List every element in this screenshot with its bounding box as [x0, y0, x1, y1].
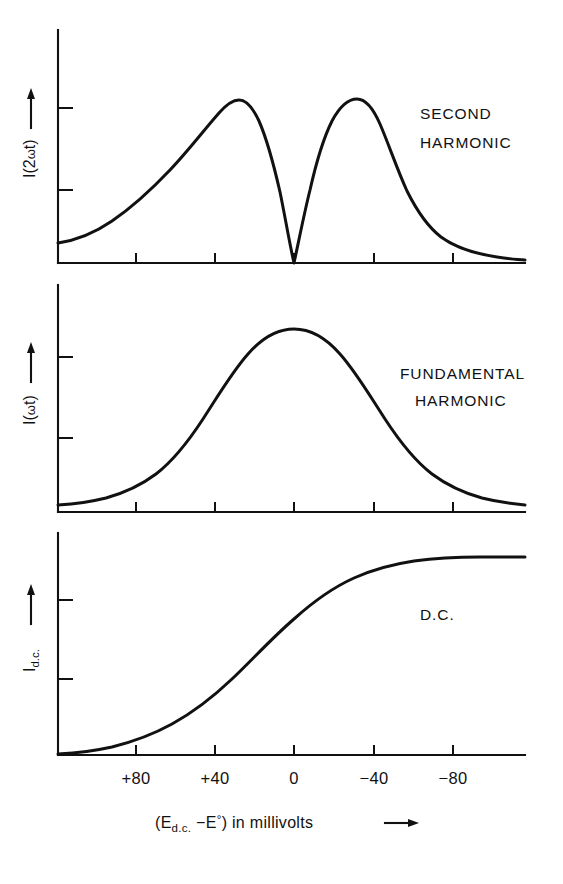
svg-text:(Ed.c. −E°) in millivolts: (Ed.c. −E°) in millivolts — [155, 813, 313, 834]
x-tick-label-p40: +40 — [200, 769, 229, 787]
panel1-ylab-post: t) — [21, 139, 38, 149]
panel2-y-axis-label: I(ωt) — [21, 395, 38, 425]
panel1-ylab-omega: ω — [23, 149, 38, 159]
harmonic-response-figure: SECOND HARMONIC I(2ωt) FUNDAMENTAL — [0, 0, 563, 884]
panel1-title-line2: HARMONIC — [420, 134, 512, 151]
x-tick-label-0: 0 — [289, 769, 299, 787]
x-tick-label-p80: +80 — [121, 769, 150, 787]
panel2-title-line2: HARMONIC — [415, 392, 507, 409]
panel1-y-arrow-head — [27, 88, 35, 99]
x-tick-label-m40: −40 — [359, 769, 388, 787]
x-tick-label-m80: −80 — [438, 769, 467, 787]
panel1-curve-second-harmonic — [58, 99, 525, 263]
panel3-y-axis-label: Id.c. — [21, 649, 41, 672]
panel3-ylab-sub: d.c. — [29, 649, 41, 668]
panel3-y-arrow-head — [27, 584, 35, 595]
xtitle-open: (E — [155, 814, 172, 831]
panel-second-harmonic: SECOND HARMONIC I(2ωt) — [21, 30, 525, 263]
panel1-ylab-pre: I(2 — [21, 159, 38, 178]
x-axis-title: (Ed.c. −E°) in millivolts — [155, 813, 419, 834]
svg-text:I(2ωt): I(2ωt) — [21, 139, 38, 178]
panel2-title-line1: FUNDAMENTAL — [400, 365, 525, 382]
panel-dc: D.C. Id.c. — [21, 533, 525, 755]
xtitle-close: ) in millivolts — [222, 814, 314, 831]
xtitle-minus: −E — [191, 814, 216, 831]
panel3-title: D.C. — [420, 606, 455, 623]
panel2-ylab-post: t) — [21, 395, 38, 405]
panel2-y-arrow-head — [27, 342, 35, 353]
panel1-y-axis-label: I(2ωt) — [21, 139, 38, 178]
panel2-ylab-omega: ω — [23, 405, 38, 415]
panel3-curve-dc — [58, 557, 525, 754]
figure-container: SECOND HARMONIC I(2ωt) FUNDAMENTAL — [0, 0, 563, 884]
xtitle-sub: d.c. — [172, 822, 192, 834]
panel-fundamental-harmonic: FUNDAMENTAL HARMONIC I(ωt) — [21, 285, 525, 512]
svg-text:Id.c.: Id.c. — [21, 649, 41, 672]
panel2-curve-fundamental — [58, 329, 525, 505]
x-title-arrow-head — [408, 819, 419, 827]
svg-text:I(ωt): I(ωt) — [21, 395, 38, 425]
x-tick-labels: +80 +40 0 −40 −80 — [121, 769, 467, 787]
panel1-title-line1: SECOND — [420, 105, 492, 122]
